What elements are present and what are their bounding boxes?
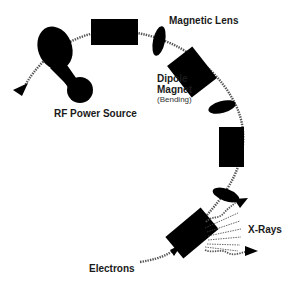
label-rf-power-source: RF Power Source [54, 109, 137, 119]
label-magnet: Magnet [157, 85, 192, 95]
label-electrons: Electrons [89, 264, 135, 274]
dipole-magnet-right [219, 127, 244, 167]
magnetic-lens-middle [207, 98, 237, 117]
beam-exit-arrow-icon [13, 83, 28, 96]
output-beam-upper [206, 202, 236, 222]
synchrotron-diagram: Magnetic Lens Dipole Magnet (Bending) RF… [0, 0, 291, 287]
label-bending: (Bending) [157, 96, 192, 104]
label-dipole: Dipole [157, 74, 188, 84]
dipole-magnet-top [91, 19, 138, 45]
label-magnetic-lens: Magnetic Lens [169, 16, 238, 26]
rf-power-source [32, 22, 93, 103]
label-x-rays: X-Rays [248, 225, 282, 235]
output-arrow-lower-icon [245, 246, 258, 256]
output-beam-lower [205, 250, 245, 254]
electron-beam-path [140, 246, 178, 262]
